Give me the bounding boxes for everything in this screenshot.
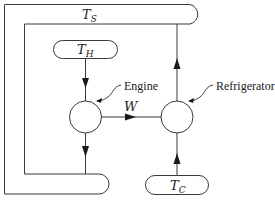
refrigerator-label: Refrigerator: [216, 79, 275, 93]
engine-leader-arrow-icon: [96, 98, 102, 103]
engine-label: Engine: [124, 79, 158, 93]
engine-circle: [70, 101, 102, 133]
arrow-down-icon: [82, 146, 89, 157]
arrow-up-icon: [174, 58, 181, 69]
diagram-canvas: TS TH Engine W Refrigerator TC: [0, 0, 275, 202]
arrow-right-icon: [125, 114, 136, 121]
arrow-down-icon: [82, 78, 89, 88]
refrigerator-circle: [161, 101, 193, 133]
arrow-up-icon: [174, 153, 181, 164]
work-label: W: [124, 99, 139, 114]
surroundings-label: TS: [82, 7, 97, 24]
engine-leader-line: [97, 85, 121, 101]
refrigerator-leader-line: [189, 85, 213, 101]
refrigerator-leader-arrow-icon: [188, 98, 194, 103]
